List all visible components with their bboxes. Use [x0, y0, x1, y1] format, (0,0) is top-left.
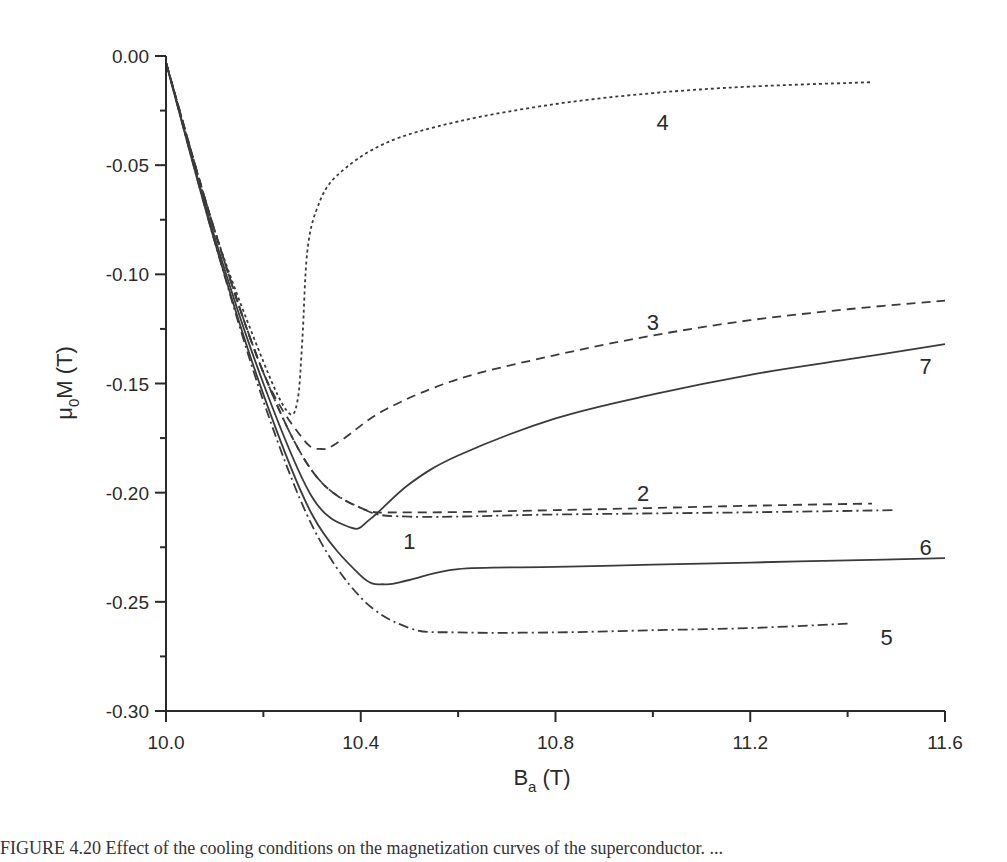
curve-4 [166, 63, 872, 415]
y-tick-label: -0.25 [106, 592, 149, 613]
curve-6 [166, 63, 945, 585]
curve-7 [166, 63, 945, 529]
curve-label-2: 2 [637, 481, 649, 506]
y-axis-title: μ0M (T) [52, 346, 82, 420]
axes: 0.00-0.05-0.10-0.15-0.20-0.25-0.3010.010… [106, 46, 963, 753]
curve-label-6: 6 [919, 535, 931, 560]
y-tick-label: -0.20 [106, 483, 149, 504]
curve-label-3: 3 [647, 310, 659, 335]
curve-5 [166, 63, 848, 633]
x-tick-label: 10.4 [342, 732, 379, 753]
curve-label-1: 1 [403, 529, 415, 554]
figure-caption: FIGURE 4.20 Effect of the cooling condit… [0, 838, 1007, 862]
x-axis-title: Ba (T) [513, 765, 570, 795]
y-tick-label: -0.15 [106, 374, 149, 395]
x-tick-label: 10.8 [537, 732, 574, 753]
y-tick-label: -0.05 [106, 155, 149, 176]
plot-area [166, 63, 945, 633]
curve-2 [166, 63, 872, 513]
x-tick-label: 11.2 [732, 732, 768, 753]
x-tick-label: 11.6 [927, 732, 963, 753]
curve-label-5: 5 [880, 625, 892, 650]
curve-1 [166, 63, 896, 517]
y-tick-label: -0.30 [106, 701, 149, 722]
curve-label-4: 4 [656, 110, 668, 135]
y-tick-label: -0.10 [106, 264, 149, 285]
x-tick-label: 10.0 [148, 732, 185, 753]
curve-3 [166, 63, 945, 449]
curve-label-7: 7 [919, 354, 931, 379]
y-tick-label: 0.00 [112, 46, 149, 67]
